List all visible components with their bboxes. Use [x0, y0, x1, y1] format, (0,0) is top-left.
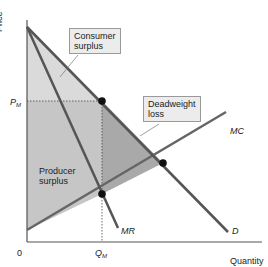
y-axis-label: Price	[0, 11, 4, 32]
deadweight-text-2: loss	[148, 109, 196, 119]
consumer-surplus-text-1: Consumer	[74, 31, 116, 41]
mr-label: MR	[121, 226, 135, 236]
monopoly-price-point	[98, 97, 106, 105]
pm-sub: M	[16, 102, 21, 108]
x-axis-label: Quantity	[230, 256, 264, 266]
qm-letter: Q	[95, 248, 102, 258]
qm-sub: M	[102, 253, 107, 259]
efficient-point	[159, 159, 167, 167]
deadweight-leader	[140, 124, 159, 136]
mr-mc-point	[98, 190, 106, 198]
d-label: D	[232, 226, 239, 236]
consumer-surplus-text-2: surplus	[74, 41, 116, 51]
producer-surplus-text-1: Producer	[39, 166, 76, 176]
mc-label: MC	[230, 126, 244, 136]
monopoly-diagram: Price Consumer surplus Deadweight loss P…	[0, 0, 268, 267]
deadweight-loss-callout: Deadweight loss	[143, 96, 201, 122]
origin-label: 0	[17, 248, 22, 258]
deadweight-text-1: Deadweight	[148, 99, 196, 109]
consumer-surplus-callout: Consumer surplus	[69, 28, 121, 54]
producer-surplus-text-2: surplus	[39, 176, 76, 186]
pm-label: PM	[10, 97, 21, 110]
qm-label: QM	[95, 248, 107, 261]
producer-surplus-label: Producer surplus	[39, 166, 76, 186]
